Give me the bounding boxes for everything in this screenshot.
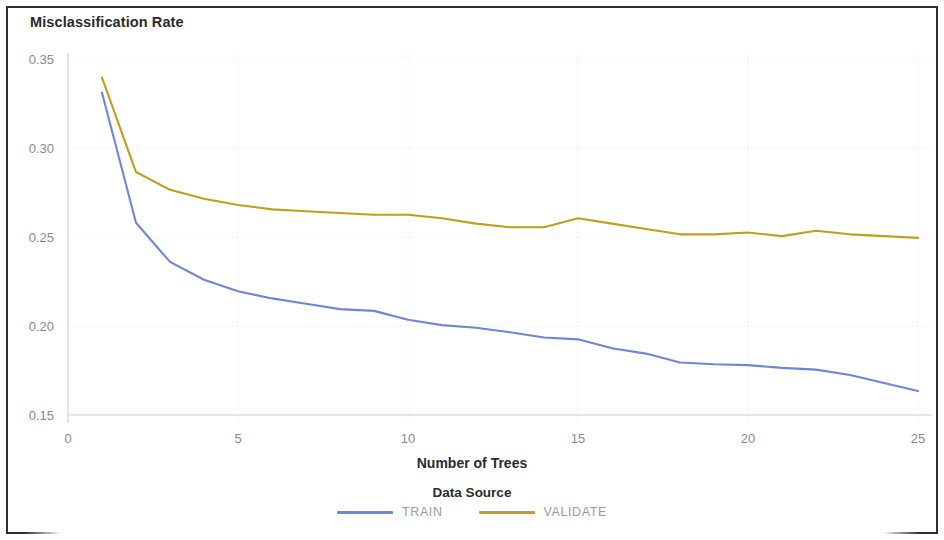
x-tick-label: 0 (64, 431, 71, 446)
legend-swatch-validate (479, 511, 535, 514)
x-tick-label: 5 (234, 431, 241, 446)
x-tick-label: 10 (401, 431, 415, 446)
legend-item-train[interactable]: TRAIN (337, 505, 443, 519)
chart-screenshot: Misclassification Rate 0.150.200.250.300… (0, 0, 944, 540)
legend-label-train: TRAIN (402, 505, 443, 519)
legend-swatch-train (337, 511, 393, 514)
chart-legend: Data Source TRAIN VALIDATE (0, 485, 944, 519)
y-axis-tick-labels: 0.150.200.250.300.35 (29, 52, 54, 423)
x-tick-label: 20 (741, 431, 755, 446)
series-line-validate (102, 78, 918, 238)
legend-items: TRAIN VALIDATE (0, 505, 944, 519)
data-series-group (102, 78, 918, 391)
legend-label-validate: VALIDATE (544, 505, 607, 519)
y-tick-label: 0.25 (29, 230, 54, 245)
axis-lines-group (68, 53, 932, 423)
legend-title: Data Source (0, 485, 944, 500)
y-tick-label: 0.20 (29, 319, 54, 334)
y-tick-label: 0.15 (29, 408, 54, 423)
y-tick-label: 0.30 (29, 141, 54, 156)
legend-item-validate[interactable]: VALIDATE (479, 505, 607, 519)
x-tick-label: 25 (911, 431, 925, 446)
x-tick-label: 15 (571, 431, 585, 446)
series-line-train (102, 93, 918, 391)
x-axis-tick-labels: 0510152025 (64, 431, 925, 446)
gridlines-group (68, 53, 932, 423)
y-tick-label: 0.35 (29, 52, 54, 67)
x-axis-title: Number of Trees (0, 455, 944, 471)
